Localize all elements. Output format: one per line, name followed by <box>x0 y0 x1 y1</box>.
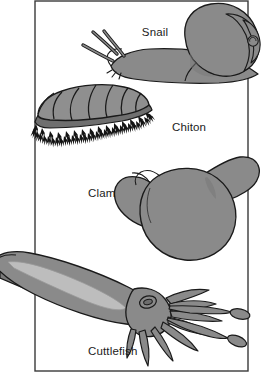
mollusc-figure: Snail <box>0 0 261 384</box>
label-cuttlefish: Cuttlefish <box>88 345 137 357</box>
label-chiton: Chiton <box>172 121 206 133</box>
label-snail: Snail <box>142 26 168 38</box>
clam-valve-near <box>140 168 236 260</box>
figure-canvas: Snail <box>0 0 261 384</box>
label-clam: Clam <box>88 187 115 199</box>
